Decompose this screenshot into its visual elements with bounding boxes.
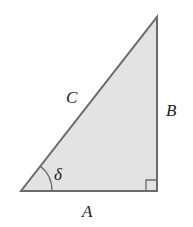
angle-label: δ bbox=[54, 166, 62, 183]
base-label: A bbox=[82, 203, 92, 220]
hypotenuse-label: C bbox=[66, 89, 77, 106]
triangle-diagram bbox=[0, 0, 193, 227]
triangle-shape bbox=[21, 17, 157, 191]
side-b-label: B bbox=[166, 102, 176, 119]
